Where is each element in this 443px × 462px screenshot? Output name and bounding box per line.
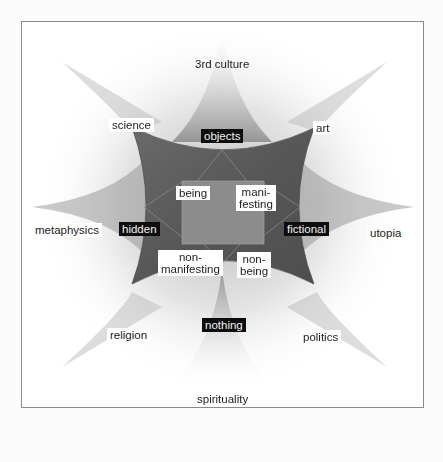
label-nothing: nothing bbox=[202, 318, 246, 332]
label-3rd-culture: 3rd culture bbox=[192, 57, 252, 71]
label-non-being: non- being bbox=[237, 252, 271, 278]
label-non-being-line1: non- bbox=[240, 253, 268, 265]
star-diagram-graphic bbox=[22, 22, 424, 408]
label-religion: religion bbox=[107, 328, 150, 342]
label-science: science bbox=[109, 118, 154, 132]
label-non-being-line2: being bbox=[240, 265, 268, 277]
label-non-manifesting-line2: manifesting bbox=[161, 263, 220, 275]
label-spirituality: spirituality bbox=[194, 392, 251, 406]
label-utopia: utopia bbox=[367, 226, 404, 240]
label-manifesting-line1: mani- bbox=[239, 186, 273, 198]
label-art: art bbox=[313, 121, 332, 135]
label-non-manifesting: non- manifesting bbox=[158, 250, 223, 276]
diagram-frame: 3rd culture science art metaphysics utop… bbox=[21, 21, 424, 408]
label-manifesting: mani- festing bbox=[236, 185, 276, 211]
label-being: being bbox=[176, 186, 210, 200]
label-manifesting-line2: festing bbox=[239, 198, 273, 210]
label-objects: objects bbox=[201, 129, 243, 143]
label-fictional: fictional bbox=[284, 222, 329, 236]
label-metaphysics: metaphysics bbox=[32, 223, 102, 237]
label-non-manifesting-line1: non- bbox=[161, 251, 220, 263]
label-hidden: hidden bbox=[119, 222, 160, 236]
label-politics: politics bbox=[300, 330, 341, 344]
